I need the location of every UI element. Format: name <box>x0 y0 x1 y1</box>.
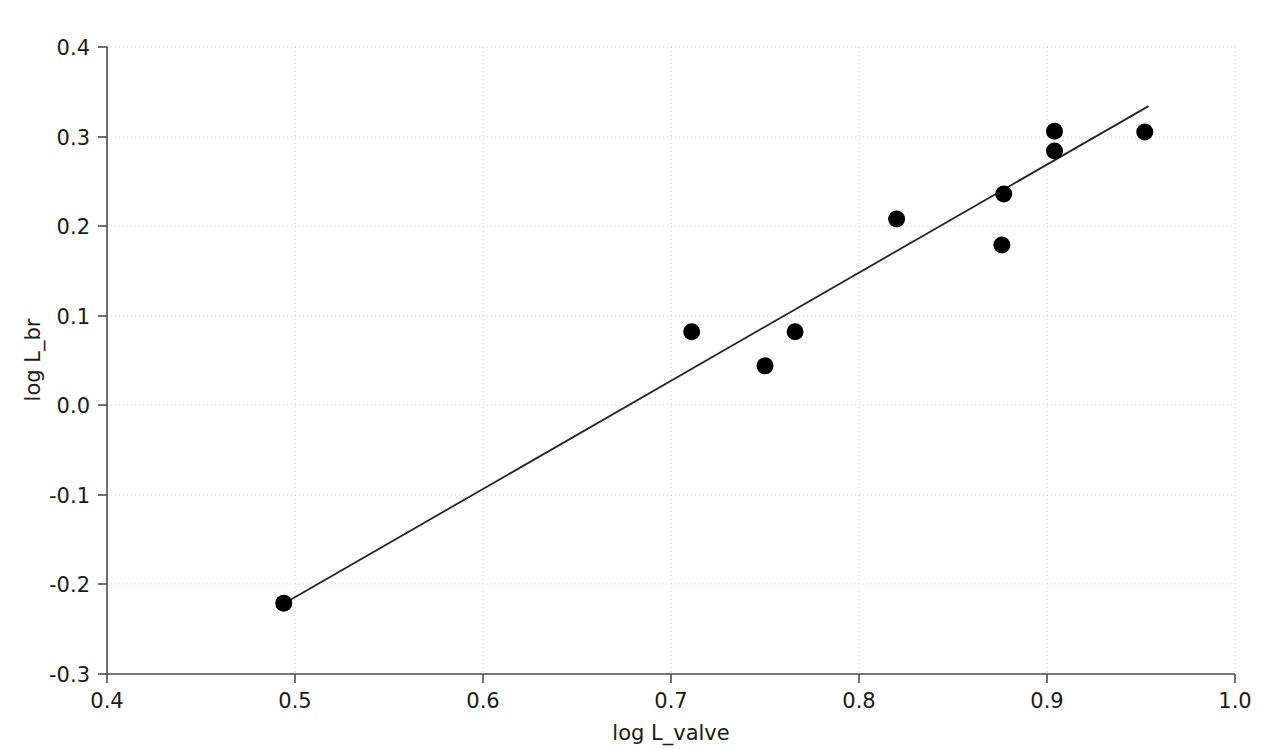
data-point <box>1046 142 1063 159</box>
ytick-label--0.2: -0.2 <box>49 573 90 597</box>
data-point <box>993 236 1010 253</box>
y-axis-title: log L_br <box>21 318 46 401</box>
xtick-label-0.9: 0.9 <box>1030 689 1063 713</box>
x-axis-tick-labels: 0.4 0.5 0.6 0.7 0.8 0.9 1.0 <box>90 689 1251 713</box>
trend-line <box>287 106 1148 601</box>
x-axis-title: log L_valve <box>612 721 729 746</box>
xtick-label-0.8: 0.8 <box>842 689 875 713</box>
ytick-label-0.4: 0.4 <box>57 36 90 60</box>
data-point <box>275 595 292 612</box>
data-point <box>787 323 804 340</box>
grid-vertical <box>107 47 1235 674</box>
ytick-label-0.3: 0.3 <box>57 126 90 150</box>
data-points-group <box>275 123 1153 612</box>
xtick-label-0.6: 0.6 <box>466 689 499 713</box>
x-axis-ticks <box>107 674 1235 683</box>
data-point <box>888 210 905 227</box>
xtick-label-0.5: 0.5 <box>278 689 311 713</box>
ytick-label--0.3: -0.3 <box>49 663 90 687</box>
ytick-label-0.2: 0.2 <box>57 215 90 239</box>
chart-figure: 0.4 0.3 0.2 0.1 0.0 -0.1 -0.2 -0.3 0.4 0… <box>0 0 1278 750</box>
y-axis-tick-labels: 0.4 0.3 0.2 0.1 0.0 -0.1 -0.2 -0.3 <box>49 36 90 687</box>
data-point <box>995 185 1012 202</box>
ytick-label--0.1: -0.1 <box>49 484 90 508</box>
scatter-plot-canvas: 0.4 0.3 0.2 0.1 0.0 -0.1 -0.2 -0.3 0.4 0… <box>0 0 1278 750</box>
ytick-label-0.0: 0.0 <box>57 394 90 418</box>
xtick-label-1.0: 1.0 <box>1218 689 1251 713</box>
xtick-label-0.7: 0.7 <box>654 689 687 713</box>
data-point <box>1136 124 1153 141</box>
xtick-label-0.4: 0.4 <box>90 689 123 713</box>
data-point <box>683 323 700 340</box>
data-point <box>1046 123 1063 140</box>
ytick-label-0.1: 0.1 <box>57 305 90 329</box>
data-point <box>757 357 774 374</box>
y-axis-ticks <box>98 47 107 674</box>
